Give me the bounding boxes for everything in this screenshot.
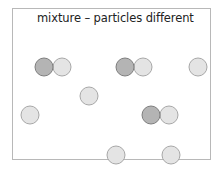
dark-atom-icon: [116, 58, 134, 76]
particles-layer: [0, 0, 221, 179]
element-particle: [189, 58, 207, 76]
light-atom-icon: [162, 146, 180, 164]
element-particle: [162, 146, 180, 164]
light-atom-icon: [160, 106, 178, 124]
light-atom-icon: [21, 106, 39, 124]
element-particle: [107, 146, 125, 164]
element-particle: [21, 106, 39, 124]
compound-particle: [142, 106, 178, 124]
light-atom-icon: [53, 58, 71, 76]
dark-atom-icon: [35, 58, 53, 76]
light-atom-icon: [189, 58, 207, 76]
light-atom-icon: [80, 87, 98, 105]
compound-particle: [35, 58, 71, 76]
compound-particle: [116, 58, 152, 76]
dark-atom-icon: [142, 106, 160, 124]
light-atom-icon: [134, 58, 152, 76]
light-atom-icon: [107, 146, 125, 164]
element-particle: [80, 87, 98, 105]
